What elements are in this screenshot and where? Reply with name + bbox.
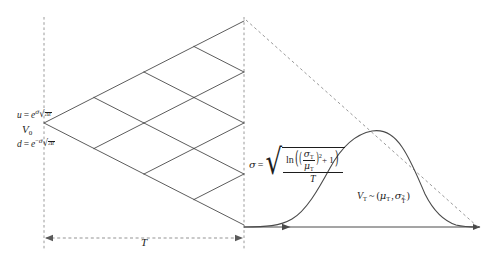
variance-fraction: ln((σTμT)2+ 1)T <box>283 149 343 185</box>
up-factor-exponent: σ√Δt <box>35 109 51 115</box>
lattice-down-edge <box>194 98 244 124</box>
time-span-symbol: T <box>141 236 147 248</box>
cv-fraction: σTμT <box>303 149 315 171</box>
radical-sign-icon: √ <box>265 144 282 179</box>
sigma-symbol: σ <box>249 159 256 170</box>
lattice-up-edge <box>94 72 144 98</box>
value-axis <box>244 224 480 230</box>
terminal-distribution-label: VT~(μT,σT2) <box>357 191 410 201</box>
plus-one-term: + 1 <box>322 155 334 165</box>
radicand-delta-t: Δt <box>48 141 55 143</box>
equals-sign: = <box>22 139 31 149</box>
lattice-up-edge <box>144 149 194 175</box>
sqrt-group: √ln((σTμT)2+ 1)T <box>265 147 344 185</box>
lattice-down-edge <box>194 47 244 73</box>
ln-operator: ln <box>286 154 294 165</box>
up-factor-label: u=eσ√Δt <box>17 111 52 121</box>
down-factor-label: d=e−σ√Δt <box>17 140 55 150</box>
initial-value-symbol: V <box>22 123 29 135</box>
equals-sign: = <box>22 110 31 120</box>
cv-numerator: σT <box>303 149 315 161</box>
equals-sign: = <box>256 159 266 170</box>
radicand-delta-t: Δt <box>45 112 52 114</box>
sigma-subscript: T <box>310 154 314 160</box>
arrow-left-icon <box>45 235 53 241</box>
lattice-up-edge <box>144 47 194 73</box>
lattice-down-edge <box>194 200 244 226</box>
lattice-up-edge <box>194 72 244 98</box>
outer-paren-close: ) <box>335 149 339 168</box>
lattice-up-edge <box>194 174 244 200</box>
lattice-down-edge <box>144 72 194 98</box>
lattice-down-edge <box>94 98 144 124</box>
radicand-fraction: ln((σTμT)2+ 1)T <box>282 147 345 185</box>
mu-subscript: T <box>310 166 314 172</box>
sigma-formula-label: σ=√ln((σTμT)2+ 1)T <box>249 147 345 185</box>
time-span-label: T <box>141 237 147 248</box>
arrow-right-icon <box>282 224 291 230</box>
down-factor-exponent: −σ√Δt <box>35 138 55 144</box>
figure-canvas <box>0 0 491 260</box>
fraction-denominator: T <box>283 173 343 185</box>
lattice-down-edge <box>194 149 244 175</box>
paren-close: ) <box>407 190 410 201</box>
lattice-down-edge <box>94 149 144 175</box>
lattice-up-edge <box>194 21 244 47</box>
lattice-down-edge <box>144 174 194 200</box>
sqrt-group: √Δt <box>43 141 55 143</box>
inner-paren-close: ) <box>316 151 319 166</box>
inner-paren-open: ( <box>299 151 302 166</box>
outer-paren-open: ( <box>295 149 299 168</box>
binomial-lattice <box>44 21 244 225</box>
lattice-up-edge <box>144 98 194 124</box>
lattice-up-edge <box>94 123 144 149</box>
binomial-lattice-figure: u=eσ√Δt V0 d=e−σ√Δt T σ=√ln((σTμT)2+ 1)T… <box>0 0 491 260</box>
sigma-symbol: σ <box>395 190 402 201</box>
cv-denominator: μT <box>303 161 315 172</box>
lattice-up-edge <box>194 123 244 149</box>
guide-lines <box>44 17 244 251</box>
lattice-down-edge <box>144 123 194 149</box>
arrow-right-icon <box>235 235 243 241</box>
initial-value-label: V0 <box>22 124 32 135</box>
sqrt-group: √Δt <box>39 112 51 114</box>
initial-value-subscript: 0 <box>29 129 33 137</box>
fraction-numerator: ln((σTμT)2+ 1) <box>283 149 343 173</box>
